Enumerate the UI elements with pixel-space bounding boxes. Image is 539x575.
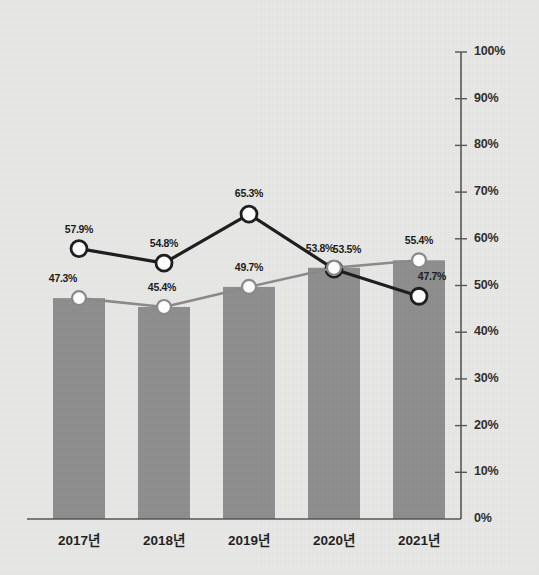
y-axis-tick-label: 40% xyxy=(474,324,498,338)
data-point-label: 55.4% xyxy=(405,234,433,246)
x-axis-tick-label: 2017년 xyxy=(58,529,100,549)
data-point-label: 53.5% xyxy=(333,243,361,255)
chart-container: 0%10%20%30%40%50%60%70%80%90%100%2017년20… xyxy=(0,0,539,575)
y-axis-tick-label: 20% xyxy=(474,418,498,432)
y-axis-tick-label: 0% xyxy=(474,511,492,525)
y-axis xyxy=(455,52,467,519)
chart-plot-area xyxy=(0,0,539,575)
data-point-label: 49.7% xyxy=(235,261,263,273)
data-point-marker xyxy=(71,241,87,257)
y-axis-tick-label: 70% xyxy=(474,184,498,198)
data-point-label: 65.3% xyxy=(235,187,263,199)
x-axis-tick-label: 2018년 xyxy=(143,529,185,549)
y-axis-tick-label: 90% xyxy=(474,91,498,105)
bar xyxy=(223,287,275,519)
data-point-marker xyxy=(242,280,256,294)
y-axis-tick-label: 60% xyxy=(474,231,498,245)
y-axis-tick-label: 80% xyxy=(474,137,498,151)
data-point-marker xyxy=(72,291,86,305)
y-axis-tick-label: 50% xyxy=(474,278,498,292)
data-point-label: 47.3% xyxy=(49,272,77,284)
bar xyxy=(53,298,105,519)
y-axis-tick-label: 10% xyxy=(474,464,498,478)
data-point-label: 53.8% xyxy=(306,242,334,254)
data-point-label: 45.4% xyxy=(148,281,176,293)
x-axis-tick-label: 2020년 xyxy=(313,529,355,549)
data-point-label: 47.7% xyxy=(418,270,446,282)
data-point-marker xyxy=(156,255,172,271)
data-point-marker xyxy=(241,206,257,222)
data-point-marker xyxy=(327,261,341,275)
y-axis-tick-label: 100% xyxy=(474,44,505,58)
x-axis-tick-label: 2021년 xyxy=(398,529,440,549)
bar xyxy=(138,307,190,519)
x-axis-tick-label: 2019년 xyxy=(228,529,270,549)
data-point-label: 54.8% xyxy=(150,237,178,249)
bar-series xyxy=(53,260,445,519)
data-point-marker xyxy=(411,288,427,304)
data-point-marker xyxy=(157,300,171,314)
bar xyxy=(308,268,360,519)
y-axis-tick-label: 30% xyxy=(474,371,498,385)
data-point-marker xyxy=(412,253,426,267)
data-point-label: 57.9% xyxy=(65,223,93,235)
